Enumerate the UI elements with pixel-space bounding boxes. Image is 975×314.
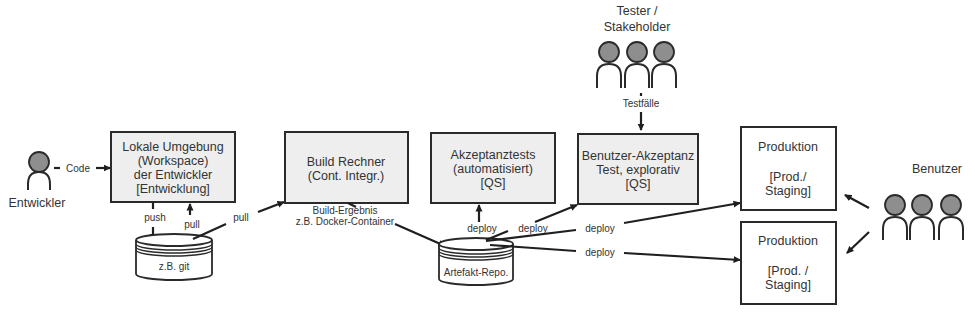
deploy-prod2-edge: deploy [490,245,740,260]
users-actor-group: Benutzer [883,162,963,240]
prod2-line-3: Staging] [765,278,811,292]
user-acceptance-box: Benutzer-Akzeptanz Test, explorativ [QS] [578,134,698,204]
code-edge: Code [54,163,110,174]
people-group-icon [883,195,963,240]
prod2-line-1: Produktion [758,234,818,248]
database-icon [136,234,212,280]
pull-build-label: pull [233,212,249,223]
git-repository: z.B. git [136,234,212,280]
build-line-2: (Cont. Integr.) [308,169,384,183]
local-env-line-3: der Entwickler [134,168,213,182]
uat-line-2: Test, explorativ [596,163,680,177]
local-environment-box: Lokale Umgebung (Workspace) der Entwickl… [111,132,235,202]
prod1-line-2: [Prod./ [770,170,807,184]
local-env-line-2: (Workspace) [138,154,209,168]
build-server-box: Build Rechner (Cont. Integr.) [285,132,408,203]
local-env-line-4: [Entwicklung] [136,182,210,196]
testers-label-2: Stakeholder [604,20,671,34]
uat-line-1: Benutzer-Akzeptanz [582,149,695,163]
pull-local-edge: pull [184,204,200,230]
acceptance-line-1: Akzeptanztests [451,148,536,162]
people-group-icon [597,42,676,88]
prod2-line-2: [Prod. / [768,264,809,278]
build-result-edge: Build-Ergebnis z.B. Docker-Container [296,203,445,246]
build-line-1: Build Rechner [307,155,386,169]
acceptance-line-3: [QS] [480,176,505,190]
code-edge-label: Code [66,163,90,174]
deploy-auto-label: deploy [467,223,496,234]
deployment-pipeline-diagram: Entwickler Code Lokale Umgebung (Workspa… [0,0,975,314]
artifact-repo-label: Artefakt-Repo. [444,267,508,278]
automated-acceptance-box: Akzeptanztests (automatisiert) [QS] [431,133,555,203]
developer-label: Entwickler [9,196,66,210]
prod1-line-1: Produktion [758,140,818,154]
deploy-uat-label: deploy [518,223,547,234]
deploy-auto-edge: deploy [467,205,496,234]
git-label: z.B. git [159,261,190,272]
local-env-line-1: Lokale Umgebung [122,140,224,154]
testcases-label: Testfälle [623,98,660,109]
developer-actor: Entwickler [9,152,66,210]
deploy-prod1-label: deploy [585,223,614,234]
deploy-prod1-edge: deploy [486,203,740,241]
users-label: Benutzer [912,162,962,176]
uat-line-3: [QS] [625,177,650,191]
pull-local-label: pull [184,219,200,230]
acceptance-line-2: (automatisiert) [453,162,533,176]
deploy-prod2-label: deploy [585,247,614,258]
build-result-label-2: z.B. Docker-Container [296,216,395,227]
build-result-label-1: Build-Ergebnis [312,205,377,216]
push-label: push [144,212,166,223]
testers-actor-group: Tester / Stakeholder [597,4,676,88]
prod1-line-3: Staging] [765,184,811,198]
users-to-prod-edges [845,195,869,253]
production-box-1: Produktion [Prod./ Staging] [741,127,836,210]
production-box-2: Produktion [Prod. / Staging] [741,222,836,304]
testers-label-1: Tester / [617,4,659,18]
person-icon [28,152,50,190]
pull-build-edge: pull [193,202,284,239]
testcases-edge: Testfälle [623,93,660,130]
